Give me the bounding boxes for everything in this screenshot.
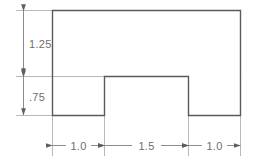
dimension-label-lower-height: .75 [29, 91, 45, 103]
horizontal-dimension-group: 1.0 1.5 1.0 [53, 140, 241, 152]
part-outline [53, 11, 241, 116]
extension-lines [16, 11, 241, 157]
dimension-label-upper-height: 1.25 [29, 38, 52, 50]
dimension-drawing-svg: 1.25 .75 1.0 1.5 1.0 [0, 0, 254, 162]
technical-drawing-canvas: 1.25 .75 1.0 1.5 1.0 [0, 0, 254, 162]
vertical-dimension-group: 1.25 .75 [24, 11, 52, 115]
dimension-label-right-leg: 1.0 [206, 140, 222, 152]
dimension-label-left-leg: 1.0 [70, 140, 86, 152]
dimension-label-notch-span: 1.5 [138, 140, 154, 152]
